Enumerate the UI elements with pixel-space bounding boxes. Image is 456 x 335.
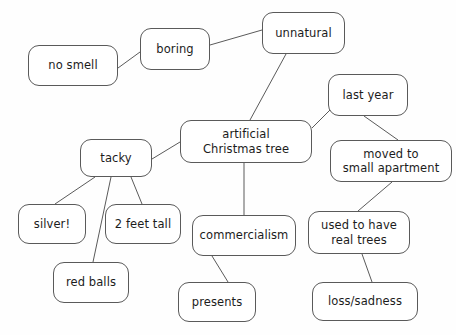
node-label: boring — [156, 42, 193, 56]
edge-no-smell-boring — [118, 52, 140, 68]
node-artificial-tree[interactable]: artificial Christmas tree — [180, 120, 312, 163]
node-two-feet-tall[interactable]: 2 feet tall — [105, 204, 181, 244]
node-used-to-have[interactable]: used to have real trees — [308, 211, 410, 254]
edge-last-year-moved-apartment — [364, 116, 398, 140]
node-label: commercialism — [200, 228, 289, 242]
edge-artificial-tree-tacky — [152, 142, 180, 159]
node-label: last year — [343, 88, 394, 102]
node-boring[interactable]: boring — [140, 28, 210, 70]
node-red-balls[interactable]: red balls — [53, 262, 129, 303]
edge-artificial-tree-last-year — [312, 110, 330, 128]
node-presents[interactable]: presents — [178, 282, 256, 322]
node-label: no smell — [48, 58, 97, 72]
node-label: 2 feet tall — [115, 217, 171, 231]
node-unnatural[interactable]: unnatural — [262, 12, 345, 54]
concept-map-canvas: no smellboringunnaturallast yearartifici… — [0, 0, 456, 335]
node-loss-sadness[interactable]: loss/sadness — [312, 282, 418, 321]
node-label: used to have real trees — [321, 218, 397, 246]
node-label: moved to small apartment — [343, 147, 440, 175]
node-label: tacky — [100, 151, 131, 165]
node-moved-apartment[interactable]: moved to small apartment — [330, 140, 452, 182]
edge-boring-unnatural — [210, 30, 262, 45]
node-label: presents — [192, 295, 243, 309]
node-label: artificial Christmas tree — [203, 127, 289, 155]
node-label: loss/sadness — [328, 294, 402, 308]
node-label: silver! — [34, 217, 70, 231]
edge-used-to-have-loss-sadness — [362, 254, 372, 282]
node-label: unnatural — [275, 26, 332, 40]
edge-unnatural-artificial-tree — [250, 54, 286, 120]
edge-tacky-silver — [55, 177, 95, 204]
edge-moved-apartment-used-to-have — [358, 182, 392, 211]
node-silver[interactable]: silver! — [18, 204, 86, 244]
node-commercialism[interactable]: commercialism — [192, 215, 296, 256]
node-tacky[interactable]: tacky — [80, 139, 152, 177]
node-last-year[interactable]: last year — [328, 74, 408, 116]
node-no-smell[interactable]: no smell — [28, 45, 118, 86]
edge-commercialism-presents — [212, 256, 228, 282]
node-label: red balls — [66, 275, 116, 289]
edge-tacky-two-feet-tall — [131, 177, 142, 204]
